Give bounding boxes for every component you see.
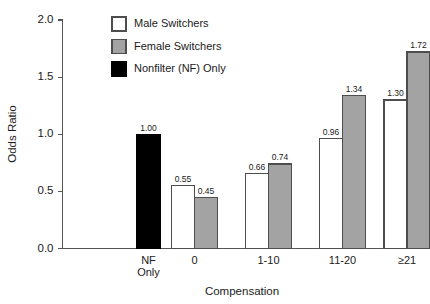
bar bbox=[195, 197, 218, 248]
bar-value-label: 1.72 bbox=[410, 40, 427, 50]
x-category-label: ≥21 bbox=[398, 254, 416, 266]
y-tick-label: 1.0 bbox=[38, 127, 54, 139]
legend-swatch bbox=[112, 40, 126, 54]
chart-legend: Male SwitchersFemale SwitchersNonfilter … bbox=[112, 17, 226, 76]
bar-value-label: 0.96 bbox=[323, 127, 340, 137]
x-category-label: 1-10 bbox=[257, 254, 279, 266]
legend-label: Nonfilter (NF) Only bbox=[134, 62, 226, 74]
bar bbox=[343, 95, 366, 248]
bar-value-label: 1.30 bbox=[387, 88, 404, 98]
bar bbox=[137, 134, 160, 248]
x-axis-title: Compensation bbox=[205, 285, 279, 297]
y-axis-group: 0.00.51.01.52.0 Odds Ratio bbox=[6, 13, 63, 254]
bar-value-label: 0.55 bbox=[175, 174, 192, 184]
x-axis-category-labels: NFOnly01-1011-20≥21 bbox=[137, 254, 416, 278]
bar-value-label: 1.00 bbox=[140, 123, 157, 133]
bar bbox=[384, 100, 407, 249]
x-axis-group: NFOnly01-1011-20≥21 Compensation bbox=[63, 249, 423, 298]
legend-swatch bbox=[112, 17, 126, 31]
bar-value-label: 0.74 bbox=[272, 152, 289, 162]
chart-canvas: 0.00.51.01.52.0 Odds Ratio NFOnly01-1011… bbox=[0, 0, 430, 304]
bar bbox=[269, 164, 292, 249]
y-tick-label: 2.0 bbox=[38, 13, 54, 25]
bar-value-label: 0.45 bbox=[198, 186, 215, 196]
x-category-label: 11-20 bbox=[329, 254, 356, 266]
y-axis-title: Odds Ratio bbox=[6, 105, 18, 163]
odds-ratio-bar-chart: 0.00.51.01.52.0 Odds Ratio NFOnly01-1011… bbox=[0, 0, 430, 304]
x-category-label: 0 bbox=[191, 254, 197, 266]
bar-value-label: 0.66 bbox=[249, 162, 266, 172]
y-tick-label: 0.5 bbox=[38, 184, 54, 196]
x-category-label: NF bbox=[141, 254, 156, 266]
y-axis-ticks: 0.00.51.01.52.0 bbox=[38, 13, 63, 254]
x-category-label: Only bbox=[137, 266, 160, 278]
legend-label: Male Switchers bbox=[134, 17, 209, 29]
bar bbox=[320, 139, 343, 249]
bar bbox=[246, 173, 269, 248]
legend-swatch bbox=[112, 62, 126, 76]
legend-label: Female Switchers bbox=[134, 40, 222, 52]
bar-value-label: 1.34 bbox=[346, 84, 363, 94]
y-tick-label: 1.5 bbox=[38, 70, 54, 82]
y-tick-label: 0.0 bbox=[38, 242, 54, 254]
bar bbox=[407, 52, 430, 249]
bar bbox=[172, 186, 195, 249]
